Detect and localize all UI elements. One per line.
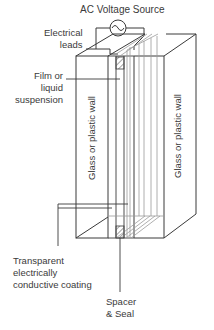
label-right-wall: Glass or plastic wall bbox=[172, 94, 183, 178]
spacer-top bbox=[116, 57, 124, 69]
label-left-wall: Glass or plastic wall bbox=[86, 96, 97, 180]
right-glass-wall bbox=[134, 34, 196, 238]
spacer-bottom bbox=[116, 226, 124, 238]
